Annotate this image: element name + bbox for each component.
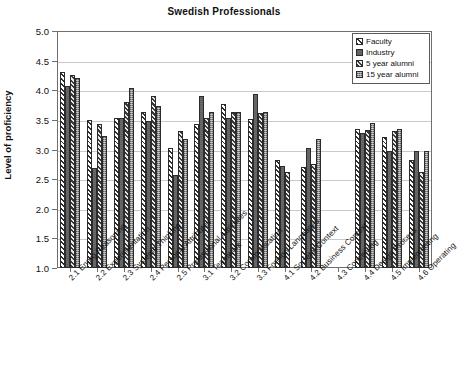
y-axis-tick-label: 2.0	[36, 203, 49, 214]
y-axis-tick-mark	[52, 120, 57, 121]
chart-legend: FacultyIndustry5 year alumni15 year alum…	[352, 33, 430, 84]
legend-label: 15 year alumni	[366, 69, 418, 80]
y-axis-tick-mark	[52, 61, 57, 62]
x-axis-tick-labels: 2.1 Engrg Reasoning2.2 Experimentation2.…	[0, 268, 448, 368]
bar-group	[57, 31, 84, 268]
y-axis-tick-mark	[52, 150, 57, 151]
y-axis-tick-mark	[52, 238, 57, 239]
y-axis-tick-label: 3.0	[36, 144, 49, 155]
y-axis-tick-label: 2.5	[36, 174, 49, 185]
legend-swatch-icon	[356, 60, 363, 67]
y-axis-tick-mark	[52, 31, 57, 32]
legend-label: Industry	[366, 47, 394, 58]
y-axis-tick-mark	[52, 268, 57, 269]
bar-group	[84, 31, 111, 268]
legend-swatch-icon	[356, 49, 363, 56]
y-axis-tick-label: 4.5	[36, 55, 49, 66]
y-axis-tick-labels: 5.04.54.03.53.02.52.01.51.0	[0, 31, 53, 268]
y-axis-tick-label: 1.5	[36, 233, 49, 244]
legend-swatch-icon	[356, 38, 363, 45]
chart-title: Swedish Professionals	[0, 6, 448, 17]
legend-swatch-icon	[356, 71, 363, 78]
y-axis-tick-label: 4.0	[36, 85, 49, 96]
y-axis-tick-mark	[52, 209, 57, 210]
legend-item[interactable]: 5 year alumni	[356, 58, 426, 69]
legend-item[interactable]: Faculty	[356, 36, 426, 47]
y-axis-tick-label: 3.5	[36, 114, 49, 125]
legend-label: Faculty	[366, 36, 392, 47]
y-axis-tick-label: 5.0	[36, 26, 49, 37]
bar-group	[245, 31, 272, 268]
legend-item[interactable]: Industry	[356, 47, 426, 58]
y-axis-tick-mark	[52, 179, 57, 180]
legend-label: 5 year alumni	[366, 58, 414, 69]
y-axis-tick-mark	[52, 90, 57, 91]
legend-item[interactable]: 15 year alumni	[356, 69, 426, 80]
bar[interactable]	[75, 78, 80, 268]
